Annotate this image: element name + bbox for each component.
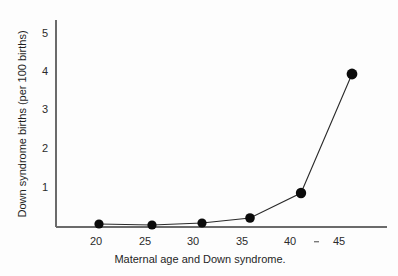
y-tick-label-1: 1 (42, 181, 48, 193)
y-axis-title: Down syndrome births (per 100 births) (16, 30, 28, 217)
y-tick-label-4: 4 (42, 65, 48, 77)
line-chart: 5 4 3 2 1 20 25 30 35 40 45 Down syndrom… (0, 0, 398, 276)
chart-page: 5 4 3 2 1 20 25 30 35 40 45 Down syndrom… (0, 0, 398, 276)
data-point (147, 220, 156, 229)
data-point (197, 218, 206, 227)
data-point (347, 69, 358, 80)
x-tick-label-20: 20 (90, 235, 102, 247)
x-tick-label-35: 35 (236, 235, 248, 247)
x-tick-label-25: 25 (139, 235, 151, 247)
x-tick-label-40: 40 (284, 235, 296, 247)
data-point (245, 213, 255, 223)
data-point (94, 219, 103, 228)
stray-dash-artifact (314, 241, 319, 242)
data-point (296, 188, 306, 198)
y-tick-label-2: 2 (42, 142, 48, 154)
y-tick-label-3: 3 (42, 103, 48, 115)
y-tick-label-5: 5 (42, 27, 48, 39)
x-tick-label-30: 30 (187, 235, 199, 247)
x-tick-label-45: 45 (333, 235, 345, 247)
x-axis-title: Maternal age and Down syndrome. (114, 253, 285, 265)
